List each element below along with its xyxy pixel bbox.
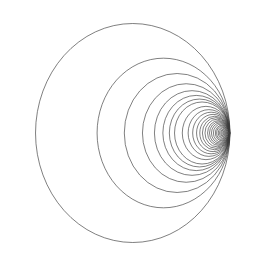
- locus-circle: [182, 106, 229, 159]
- locus-circle: [124, 74, 230, 193]
- plot-figure: [0, 0, 266, 274]
- locus-circle: [188, 110, 229, 157]
- locus-circle: [36, 24, 230, 243]
- locus-circle: [229, 133, 230, 134]
- locus-curves-group: [36, 24, 230, 243]
- plot-canvas: [0, 0, 266, 274]
- locus-circle: [97, 58, 230, 208]
